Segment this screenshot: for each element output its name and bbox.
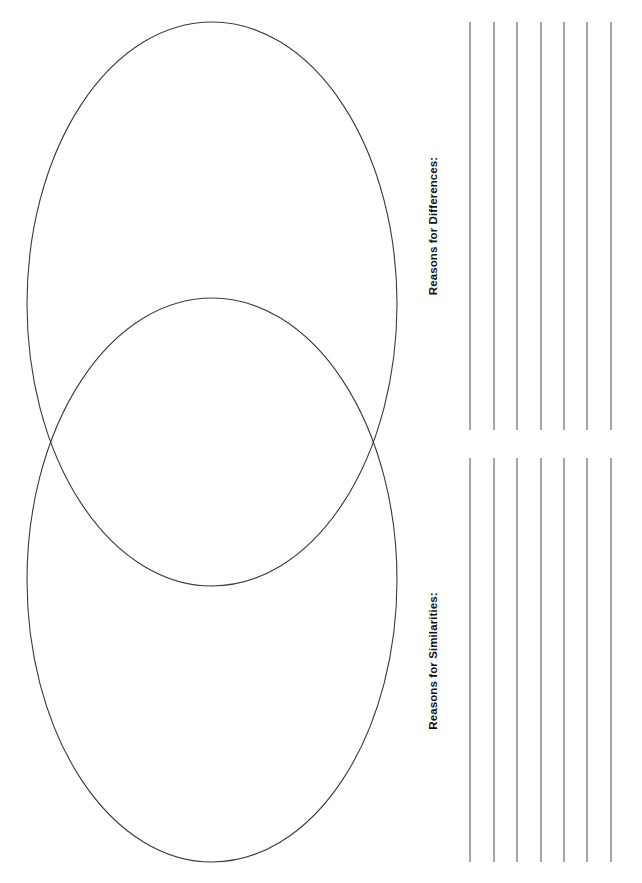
- panel-reasons-for-similarities: Reasons for Similarities:: [410, 456, 642, 866]
- writing-lines-similarities[interactable]: [466, 456, 624, 866]
- writing-lines-differences[interactable]: [466, 18, 624, 434]
- writing-lines-similarities-svg: [466, 456, 624, 866]
- writing-lines-differences-svg: [466, 18, 624, 434]
- venn-diagram-svg: [0, 0, 420, 883]
- writing-panels: Reasons for Differences: Reasons for Sim…: [410, 0, 642, 883]
- venn-top-ellipse[interactable]: [27, 22, 397, 586]
- panel-label-differences-text: Reasons for Differences:: [427, 157, 439, 296]
- panel-label-similarities: Reasons for Similarities:: [410, 456, 456, 866]
- panel-label-differences: Reasons for Differences:: [410, 18, 456, 434]
- panel-reasons-for-differences: Reasons for Differences:: [410, 18, 642, 434]
- worksheet-page: Reasons for Differences: Reasons for Sim…: [0, 0, 642, 883]
- venn-diagram: [0, 0, 420, 883]
- venn-bottom-ellipse[interactable]: [27, 298, 397, 862]
- panel-label-similarities-text: Reasons for Similarities:: [427, 592, 439, 729]
